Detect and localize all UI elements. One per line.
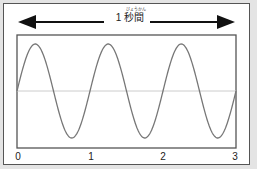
x-tick-0: 0 <box>13 151 23 162</box>
arrow-right-icon <box>217 15 235 29</box>
arrow-left-icon <box>18 15 36 29</box>
x-tick-3: 3 <box>230 151 240 162</box>
duration-label: 1 秒間 <box>110 13 150 23</box>
waveform-plot <box>0 0 257 169</box>
x-tick-2: 2 <box>158 151 168 162</box>
x-tick-1: 1 <box>86 151 96 162</box>
